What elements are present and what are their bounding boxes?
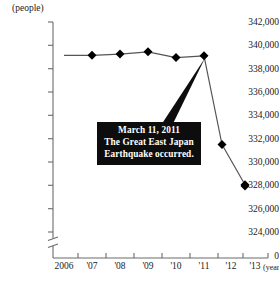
earthquake-annotation-box: March 11, 2011 The Great East Japan Eart… [97,122,201,165]
data-point-2009 [172,53,181,62]
data-point-2011 [218,140,227,149]
data-point-2008 [144,47,153,56]
annotation-line-2: The Great East Japan [101,137,197,149]
x-axis-ticks [78,253,268,258]
data-point-2007 [116,50,125,59]
data-point-2010 [200,51,209,60]
annotation-line-1: March 11, 2011 [101,125,197,137]
annotation-line-3: Earthquake occurred. [101,149,197,161]
axis-break-icon [48,237,58,248]
y-axis-ticks [48,22,53,232]
data-point-2006 [88,51,97,60]
population-line-chart: (people) 342,000 340,000 338,000 336,000… [0,0,279,283]
data-point-2013 [241,182,250,191]
